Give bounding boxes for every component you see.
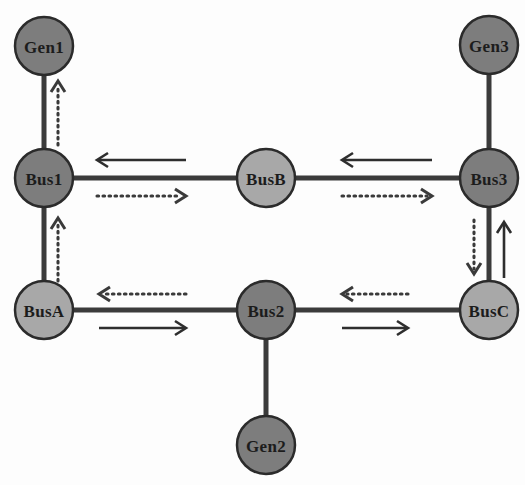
flow-arrow-right-dotted (342, 189, 432, 203)
network-diagram-canvas: Gen1Gen3Bus1BusBBus3BusABus2BusCGen2 (0, 0, 525, 485)
node-circle-generator[interactable] (460, 16, 518, 74)
network-diagram-svg: Gen1Gen3Bus1BusBBus3BusABus2BusCGen2 (0, 0, 525, 485)
node-circle-bus[interactable] (237, 149, 295, 207)
flow-arrow-right-solid (342, 321, 408, 335)
edges-layer (44, 45, 489, 445)
flow-arrow-left-solid (342, 153, 432, 167)
flow-arrow-left-dotted (342, 287, 408, 301)
flow-arrow-up-dotted (51, 218, 65, 281)
node-circle-bus[interactable] (460, 149, 518, 207)
node-circle-bus[interactable] (460, 281, 518, 339)
flow-arrow-left-solid (97, 153, 186, 167)
node-gen1[interactable]: Gen1 (15, 17, 73, 75)
node-bus3[interactable]: Bus3 (460, 149, 518, 207)
node-circle-bus[interactable] (237, 281, 295, 339)
node-bus2[interactable]: Bus2 (237, 281, 295, 339)
node-gen3[interactable]: Gen3 (460, 16, 518, 74)
node-busB[interactable]: BusB (237, 149, 295, 207)
flow-arrow-right-dotted (97, 189, 186, 203)
node-circle-generator[interactable] (237, 416, 295, 474)
node-circle-generator[interactable] (15, 17, 73, 75)
node-busC[interactable]: BusC (460, 281, 518, 339)
node-circle-bus[interactable] (15, 149, 73, 207)
flow-arrow-up-solid (497, 222, 511, 278)
node-busA[interactable]: BusA (15, 281, 73, 339)
flow-arrow-left-dotted (99, 287, 186, 301)
node-bus1[interactable]: Bus1 (15, 149, 73, 207)
flow-arrow-up-dotted (51, 81, 65, 145)
node-gen2[interactable]: Gen2 (237, 416, 295, 474)
flow-arrow-right-solid (99, 321, 186, 335)
flow-arrow-down-dotted (467, 220, 481, 274)
node-circle-bus[interactable] (15, 281, 73, 339)
